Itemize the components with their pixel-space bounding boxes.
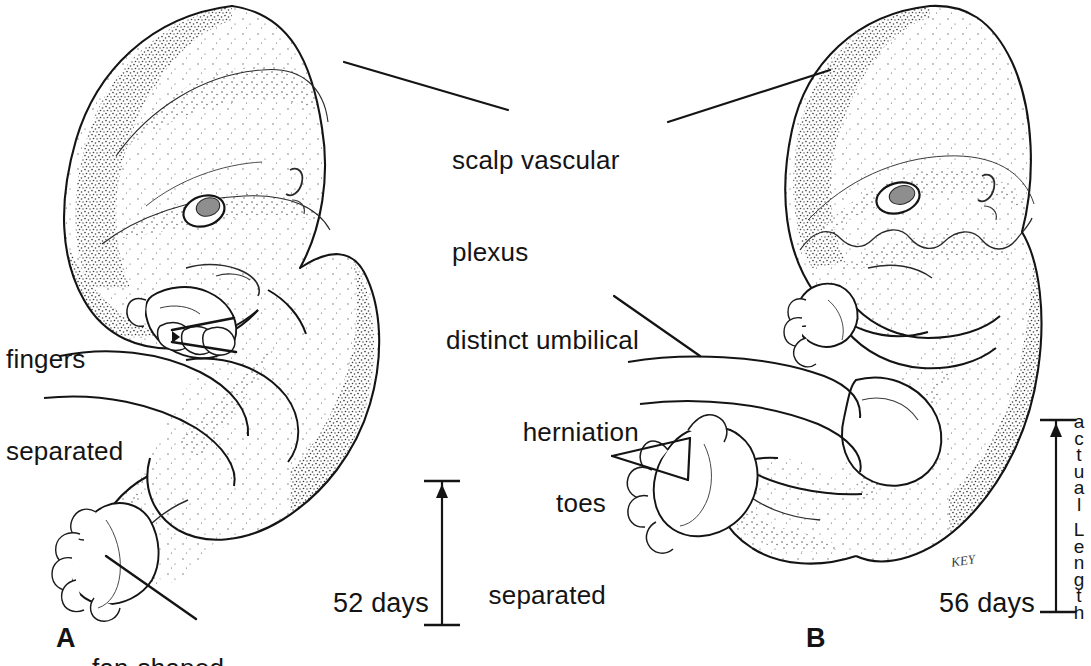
embryo-figure: scalp vascular plexus fingers separated …: [0, 0, 1091, 666]
actual-length-vertical-label: actualLength: [1068, 414, 1090, 621]
embryo-56-days: [627, 0, 1060, 580]
age-label-56-days: 56 days: [939, 588, 1035, 620]
annotation-webbed-line1: fan-shaped: [92, 653, 242, 666]
actual-length-letter-5: l: [1068, 497, 1090, 514]
annotation-fan-shaped-webbed-toes: fan-shaped webbed toes: [92, 592, 242, 666]
annotation-scalp-line1: scalp vascular: [452, 145, 620, 176]
age-label-52-days: 52 days: [333, 588, 429, 620]
embryo-56-cord-upper: [628, 357, 860, 418]
annotation-toes-separated: toes separated: [466, 427, 606, 666]
annotation-fingers-line1: fingers: [6, 344, 123, 375]
panel-letter-b: B: [806, 623, 826, 655]
annotation-umbilical-line1: distinct umbilical: [446, 325, 639, 356]
panel-letter-a: A: [56, 623, 76, 655]
embryo-56-hands: [784, 284, 858, 367]
annotation-fingers-line2: separated: [6, 436, 123, 467]
annotation-fingers-separated: fingers separated: [6, 283, 123, 528]
annotation-toes-line1: toes: [466, 488, 606, 519]
actual-length-letter-12: h: [1068, 605, 1090, 622]
annotation-toes-line2: separated: [466, 580, 606, 611]
